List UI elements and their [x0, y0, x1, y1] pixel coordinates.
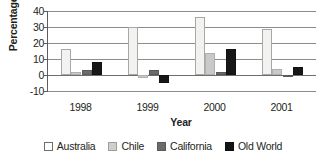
x-tick-label: 1999	[114, 101, 181, 113]
x-axis-title: Year	[47, 116, 315, 128]
bar-chile-1999	[138, 75, 148, 78]
legend-item-label: Chile	[121, 140, 144, 152]
x-tick-label: 1998	[47, 101, 114, 113]
legend-item-label: Australia	[57, 140, 96, 152]
y-tick-label: 0	[16, 70, 44, 81]
bar-california-2000	[216, 72, 226, 75]
bar-oldworld-1999	[159, 75, 169, 83]
bar-oldworld-1998	[92, 62, 102, 75]
legend-item-oldworld[interactable]: Old World	[225, 140, 282, 152]
bar-australia-2000	[195, 17, 205, 75]
gridline	[48, 91, 316, 92]
legend-swatch-icon	[44, 142, 53, 151]
x-tick-label: 2000	[181, 101, 248, 113]
bar-oldworld-2000	[226, 49, 236, 75]
legend-swatch-icon	[225, 142, 234, 151]
legend-item-label: Old World	[238, 140, 282, 152]
bar-california-1999	[149, 70, 159, 75]
bar-australia-2001	[262, 29, 272, 75]
y-axis-tick-labels: 403020100-10	[16, 5, 44, 99]
bar-chile-1998	[71, 72, 81, 75]
bar-chart-figure: Percentage 403020100-10 1998199920002001…	[0, 0, 326, 163]
legend-item-label: California	[170, 140, 212, 152]
bar-california-1998	[82, 70, 92, 75]
legend-swatch-icon	[157, 142, 166, 151]
legend-item-california[interactable]: California	[157, 140, 212, 152]
y-tick-mark	[44, 91, 48, 92]
y-tick-label: 40	[16, 6, 44, 17]
y-tick-label: 20	[16, 38, 44, 49]
chart-legend: AustraliaChileCaliforniaOld World	[0, 138, 326, 154]
bar-chile-2001	[272, 69, 282, 75]
y-tick-label: 10	[16, 54, 44, 65]
x-axis-tick-labels: 1998199920002001	[47, 101, 315, 115]
y-tick-label: -10	[16, 86, 44, 97]
legend-item-australia[interactable]: Australia	[44, 140, 96, 152]
x-tick-label: 2001	[248, 101, 315, 113]
bar-australia-1998	[61, 49, 71, 75]
y-tick-label: 30	[16, 22, 44, 33]
bar-australia-1999	[128, 27, 138, 75]
bar-chile-2000	[205, 53, 215, 75]
bars-group	[48, 11, 316, 91]
legend-swatch-icon	[108, 142, 117, 151]
bar-california-2001	[283, 75, 293, 77]
bar-oldworld-2001	[293, 67, 303, 75]
legend-item-chile[interactable]: Chile	[108, 140, 144, 152]
plot-area	[47, 11, 316, 91]
